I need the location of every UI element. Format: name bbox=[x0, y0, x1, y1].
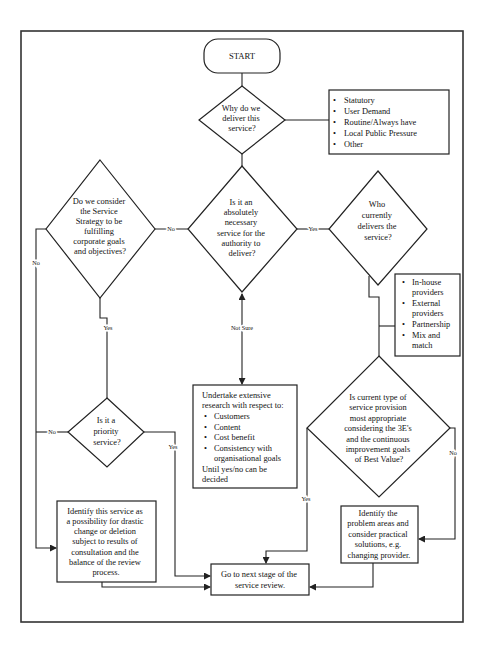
service-review-flowchart: START Why do we deliver this service? • … bbox=[0, 0, 486, 654]
priority-line: priority bbox=[93, 427, 119, 436]
research-outro: Until yes/no can be bbox=[202, 465, 267, 474]
bullet-icon: • bbox=[204, 412, 207, 421]
research-intro: research with respect to: bbox=[202, 401, 284, 410]
drastic-line: Identify this service as bbox=[67, 507, 143, 516]
reason-item: Local Public Pressure bbox=[344, 129, 417, 138]
label-yes: Yes bbox=[168, 443, 178, 450]
bullet-icon: • bbox=[333, 96, 336, 105]
provider-item: providers bbox=[412, 309, 444, 318]
current-line: Is current type of bbox=[349, 393, 407, 402]
bullet-icon: • bbox=[402, 278, 405, 287]
current-line: considering the 3E's bbox=[344, 424, 412, 433]
reason-item: User Demand bbox=[344, 107, 391, 116]
reason-item: Other bbox=[344, 140, 363, 149]
label-no: No bbox=[32, 259, 40, 266]
problems-line: solutions, e.g. bbox=[355, 540, 402, 549]
decision-corporate-goals: Do we consider the Service Strategy to b… bbox=[46, 160, 155, 298]
necessary-line: authority to bbox=[222, 239, 261, 248]
necessary-line: absolutely bbox=[224, 208, 259, 217]
necessary-line: service for the bbox=[217, 229, 265, 238]
reasons-box: • Statutory • User Demand • Routine/Alwa… bbox=[329, 90, 449, 154]
drastic-change-box: Identify this service as a possibility f… bbox=[57, 501, 156, 582]
current-line: most appropriate bbox=[350, 414, 407, 423]
label-no: No bbox=[48, 428, 56, 435]
problem-areas-box: Identify the problem areas and consider … bbox=[341, 506, 418, 563]
research-box: Undertake extensive research with respec… bbox=[193, 385, 297, 488]
provider-item: External bbox=[412, 299, 441, 308]
problems-line: consider practical bbox=[348, 530, 408, 539]
next-stage-line: service review. bbox=[235, 581, 285, 590]
bullet-icon: • bbox=[402, 331, 405, 340]
bullet-icon: • bbox=[204, 444, 207, 453]
priority-line: service? bbox=[93, 438, 121, 447]
why-line: Why do we bbox=[222, 104, 261, 113]
svg-text:Identify this service as: Identify this service as a possibility f… bbox=[66, 507, 145, 577]
necessary-line: Is it an bbox=[230, 198, 254, 207]
current-line: service provision bbox=[349, 403, 407, 412]
provider-item: In-house bbox=[412, 278, 442, 287]
bullet-icon: • bbox=[204, 423, 207, 432]
svg-text:Is current type of servi: Is current type of service provision mos… bbox=[344, 393, 414, 464]
connector-who-to-current bbox=[369, 276, 379, 356]
connector-problems-to-next bbox=[310, 563, 373, 587]
corporate-line: corporate goals bbox=[73, 237, 124, 246]
priority-line: Is it a bbox=[97, 416, 116, 425]
who-line: Who bbox=[369, 200, 385, 209]
research-item: Customers bbox=[214, 412, 250, 421]
current-line: improvement goals bbox=[346, 445, 410, 454]
decision-absolutely-necessary: Is it an absolutely necessary service fo… bbox=[188, 166, 297, 292]
research-item: Content bbox=[214, 423, 241, 432]
who-line: service? bbox=[364, 233, 392, 242]
who-line: delivers the bbox=[358, 222, 397, 231]
corporate-line: Strategy to be bbox=[76, 217, 123, 226]
bullet-icon: • bbox=[204, 433, 207, 442]
why-line: service? bbox=[228, 124, 256, 133]
who-line: currently bbox=[362, 211, 393, 220]
current-line: of Best Value? bbox=[355, 455, 404, 464]
corporate-line: fulfilling bbox=[84, 227, 115, 236]
bullet-icon: • bbox=[333, 118, 336, 127]
drastic-line: change or deletion bbox=[74, 527, 137, 536]
label-not-sure: Not Sure bbox=[231, 324, 253, 331]
bullet-icon: • bbox=[402, 320, 405, 329]
bullet-icon: • bbox=[402, 299, 405, 308]
bullet-icon: • bbox=[333, 140, 336, 149]
problems-line: changing provider. bbox=[348, 551, 411, 560]
label-yes: Yes bbox=[301, 495, 311, 502]
research-item: organisational goals bbox=[214, 454, 281, 463]
drastic-line: balance of the review bbox=[69, 558, 142, 567]
research-item: Cost benefit bbox=[214, 433, 255, 442]
start-label: START bbox=[229, 51, 256, 61]
label-yes: Yes bbox=[103, 324, 113, 331]
corporate-line: the Service bbox=[80, 207, 118, 216]
label-yes: Yes bbox=[308, 225, 318, 232]
corporate-line: Do we consider bbox=[73, 197, 126, 206]
svg-text:Is it a priority s: Is it a priority service? bbox=[93, 416, 121, 447]
decision-current-provision: Is current type of service provision mos… bbox=[307, 356, 450, 497]
reason-item: Statutory bbox=[344, 96, 376, 105]
research-outro: decided bbox=[202, 475, 229, 484]
problems-line: Identify the bbox=[359, 509, 398, 518]
current-line: and the continuous bbox=[346, 435, 409, 444]
decision-why-deliver: Why do we deliver this service? bbox=[199, 86, 285, 154]
next-stage-line: Go to next stage of the bbox=[221, 570, 297, 579]
corporate-line: and objectives? bbox=[74, 247, 126, 256]
why-line: deliver this bbox=[222, 114, 259, 123]
drastic-line: consultation and the bbox=[71, 548, 139, 557]
connector-drastic-to-next bbox=[102, 582, 210, 587]
research-intro: Undertake extensive bbox=[202, 391, 271, 400]
start-node: START bbox=[204, 39, 280, 73]
providers-box: • In-house providers • External provider… bbox=[395, 274, 460, 356]
connector-corporate-no bbox=[36, 229, 56, 548]
provider-item: providers bbox=[412, 288, 444, 297]
label-no: No bbox=[167, 225, 175, 232]
research-item: Consistency with bbox=[214, 444, 273, 453]
problems-line: problem areas and bbox=[347, 519, 409, 528]
decision-priority-service: Is it a priority service? bbox=[68, 398, 144, 467]
bullet-icon: • bbox=[333, 107, 336, 116]
next-stage-box: Go to next stage of the service review. bbox=[211, 564, 309, 595]
provider-item: Mix and bbox=[412, 331, 441, 340]
decision-who-delivers: Who currently delivers the service? bbox=[329, 171, 427, 285]
drastic-line: process. bbox=[92, 568, 119, 577]
provider-item: Partnership bbox=[412, 320, 450, 329]
